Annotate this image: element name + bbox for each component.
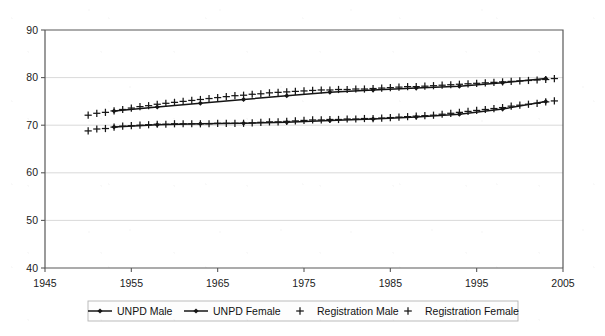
x-tick-label: 2005: [551, 277, 575, 289]
legend-item-label: UNPD Male: [117, 305, 173, 317]
x-tick-label: 1975: [292, 277, 316, 289]
x-tick-label: 1985: [379, 277, 403, 289]
y-tick-label: 60: [26, 166, 38, 178]
chart-legend[interactable]: UNPD MaleUNPD FemaleRegistration MaleReg…: [88, 301, 519, 321]
x-tick-label: 1995: [465, 277, 489, 289]
x-tick-label: 1945: [33, 277, 57, 289]
y-tick-label: 40: [26, 262, 38, 274]
y-tick-label: 70: [26, 119, 38, 131]
chart-container: 405060708090 194519551965197519851995200…: [0, 0, 605, 336]
x-tick-label: 1965: [206, 277, 230, 289]
legend-item-label: Registration Female: [425, 305, 519, 317]
y-tick-label: 80: [26, 71, 38, 83]
y-tick-label: 50: [26, 214, 38, 226]
y-tick-label: 90: [26, 24, 38, 36]
x-tick-label: 1955: [120, 277, 144, 289]
legend-item-label: Registration Male: [317, 305, 399, 317]
legend-item-label: UNPD Female: [213, 305, 281, 317]
life-expectancy-line-chart: 405060708090 194519551965197519851995200…: [0, 0, 605, 336]
